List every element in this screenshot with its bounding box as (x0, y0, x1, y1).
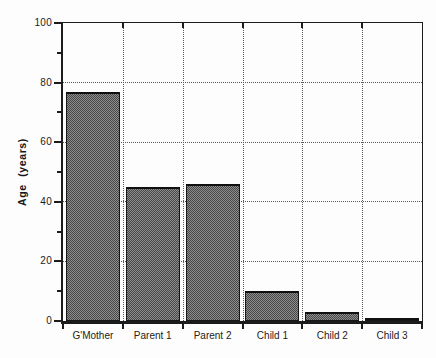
age-bar (305, 312, 359, 321)
top-axis-tick (182, 23, 184, 28)
age-bar (245, 291, 299, 321)
y-axis-tick-label: 20 (19, 255, 52, 267)
y-axis-tick-label: 60 (19, 136, 52, 148)
category-label: Parent 2 (183, 329, 243, 342)
category-separator-line (302, 23, 303, 321)
y-axis-tick-label: 80 (19, 77, 52, 89)
category-label: Child 3 (362, 329, 422, 342)
y-axis-minor-tick (57, 290, 61, 292)
top-axis-tick (301, 23, 303, 28)
y-axis-major-tick (54, 141, 61, 143)
category-separator-line (243, 23, 244, 321)
y-axis-minor-tick (57, 171, 61, 173)
age-bar (365, 318, 419, 321)
y-axis-minor-tick (57, 111, 61, 113)
category-separator-line (362, 23, 363, 321)
top-axis-tick (242, 23, 244, 28)
category-label: G'Mother (63, 329, 123, 342)
y-axis-tick-label: 0 (19, 315, 52, 327)
age-bar (126, 187, 180, 321)
y-axis-major-tick (54, 201, 61, 203)
category-separator-line (123, 23, 124, 321)
category-label: Parent 1 (123, 329, 183, 342)
y-axis-major-tick (54, 260, 61, 262)
y-axis-major-tick (54, 82, 61, 84)
top-axis-tick (361, 23, 363, 28)
y-axis-major-tick (54, 320, 61, 322)
y-axis-minor-tick (57, 52, 61, 54)
bar-chart-figure: Age (years) 020406080100G'MotherParent 1… (0, 0, 436, 358)
y-axis-major-tick (54, 22, 61, 24)
y-axis-tick-label: 100 (19, 17, 52, 29)
category-label: Child 1 (243, 329, 303, 342)
plot-area (61, 22, 423, 324)
age-bar (66, 92, 120, 321)
age-bar (186, 184, 240, 321)
y-axis-tick-label: 40 (19, 196, 52, 208)
y-axis-minor-tick (57, 231, 61, 233)
category-label: Child 2 (302, 329, 362, 342)
top-axis-tick (122, 23, 124, 28)
category-separator-line (183, 23, 184, 321)
